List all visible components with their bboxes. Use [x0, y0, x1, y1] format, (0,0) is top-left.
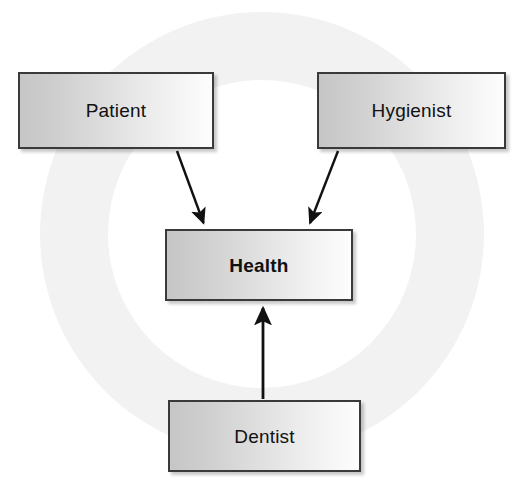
node-patient[interactable]: Patient	[18, 72, 214, 149]
node-patient-label: Patient	[86, 101, 147, 120]
node-dentist-label: Dentist	[234, 427, 295, 446]
node-hygienist[interactable]: Hygienist	[317, 72, 506, 149]
node-dentist[interactable]: Dentist	[168, 400, 361, 472]
node-health-label: Health	[229, 256, 288, 275]
node-hygienist-label: Hygienist	[372, 101, 452, 120]
node-health[interactable]: Health	[165, 229, 353, 301]
diagram-canvas: Patient Hygienist Health Dentist	[0, 0, 515, 487]
